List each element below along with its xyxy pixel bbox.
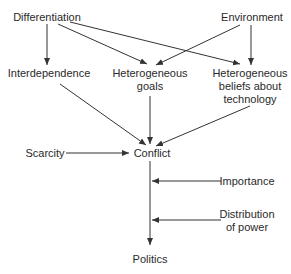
edge-beliefs-conflict [156,106,250,146]
node-heterogeneous-beliefs-line3: technology [212,93,287,106]
node-heterogeneous-goals: Heterogeneous goals [112,67,187,93]
edge-differentiation-beliefs [70,22,240,64]
node-heterogeneous-goals-line1: Heterogeneous [112,67,187,80]
node-heterogeneous-goals-line2: goals [112,80,187,93]
diagram-canvas: Differentiation Environment Interdepende… [0,0,291,274]
node-heterogeneous-beliefs-line2: beliefs about [212,80,287,93]
node-heterogeneous-beliefs-line1: Heterogeneous [212,67,287,80]
node-environment: Environment [221,11,283,24]
node-conflict: Conflict [134,147,171,160]
node-distribution-of-power: Distribution of power [219,208,274,234]
edge-interdependence-conflict [60,84,146,145]
node-politics: Politics [133,253,168,266]
node-heterogeneous-beliefs: Heterogeneous beliefs about technology [212,67,287,106]
node-distribution-line2: of power [219,221,274,234]
node-differentiation: Differentiation [13,11,81,24]
edge-environment-goals [156,25,240,65]
node-interdependence: Interdependence [8,67,91,80]
node-scarcity: Scarcity [25,147,64,160]
node-importance: Importance [219,175,274,188]
node-distribution-line1: Distribution [219,208,274,221]
